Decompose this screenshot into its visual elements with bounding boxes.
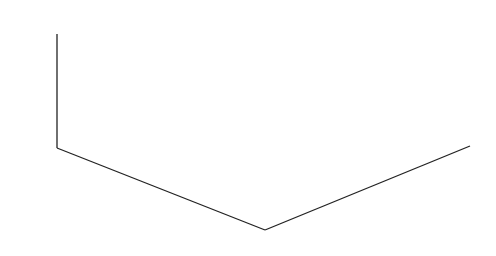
surface-plot bbox=[0, 0, 496, 256]
x-axis bbox=[57, 148, 265, 230]
y-axis bbox=[265, 146, 470, 230]
